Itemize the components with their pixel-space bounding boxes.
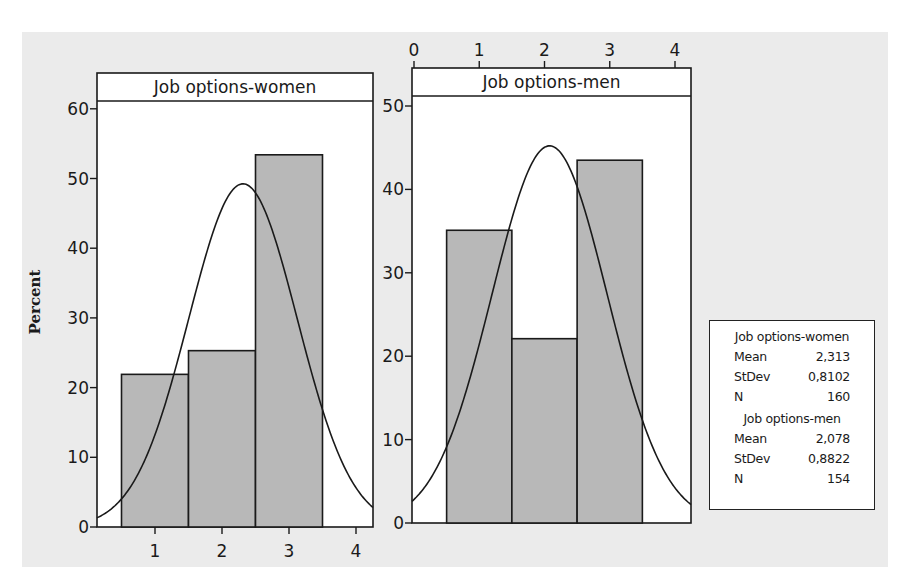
histogram-bar xyxy=(189,351,256,527)
stat-value: 0,8102 xyxy=(808,367,850,387)
x-tick-label: 1 xyxy=(474,40,485,60)
legend-row-n: N160 xyxy=(720,387,864,407)
y-tick-label: 20 xyxy=(67,378,89,398)
x-tick-label: 3 xyxy=(604,40,615,60)
x-tick-label: 4 xyxy=(351,541,362,561)
stat-value: 154 xyxy=(827,469,850,489)
stat-label: Mean xyxy=(734,347,767,367)
histogram-bar xyxy=(122,374,189,527)
stat-value: 0,8822 xyxy=(808,449,850,469)
stat-value: 160 xyxy=(827,387,850,407)
y-tick-label: 30 xyxy=(67,308,89,328)
legend-title: Job options-women xyxy=(720,329,864,344)
legend-row-mean: Mean2,313 xyxy=(720,347,864,367)
panel-title: Job options-men xyxy=(481,72,620,92)
y-tick-label: 0 xyxy=(393,513,404,533)
statistics-legend: Job options-women Mean2,313 StDev0,8102 … xyxy=(709,320,875,510)
x-tick-label: 2 xyxy=(539,40,550,60)
panel-title: Job options-women xyxy=(153,77,316,97)
y-tick-label: 10 xyxy=(382,430,404,450)
stat-value: 2,078 xyxy=(816,429,850,449)
y-tick-label: 20 xyxy=(382,346,404,366)
y-tick-label: 30 xyxy=(382,263,404,283)
legend-row-mean: Mean2,078 xyxy=(720,429,864,449)
y-tick-label: 60 xyxy=(67,99,89,119)
stat-label: StDev xyxy=(734,367,770,387)
stat-label: N xyxy=(734,469,743,489)
legend-row-stdev: StDev0,8822 xyxy=(720,449,864,469)
stat-value: 2,313 xyxy=(816,347,850,367)
legend-row-n: N154 xyxy=(720,469,864,489)
x-tick-label: 3 xyxy=(284,541,295,561)
legend-row-stdev: StDev0,8102 xyxy=(720,367,864,387)
x-tick-label: 1 xyxy=(150,541,161,561)
x-tick-label: 4 xyxy=(670,40,681,60)
legend-title: Job options-men xyxy=(720,411,864,426)
y-tick-label: 40 xyxy=(67,238,89,258)
x-tick-label: 2 xyxy=(217,541,228,561)
panel-men: Job options-men0102030405001234 xyxy=(382,40,691,533)
x-tick-label: 0 xyxy=(409,40,420,60)
panel-women: Job options-women01020304050601234 xyxy=(67,73,373,561)
stat-label: Mean xyxy=(734,429,767,449)
y-tick-label: 40 xyxy=(382,179,404,199)
histogram-bar xyxy=(447,230,512,523)
y-axis-label: Percent xyxy=(26,270,44,335)
legend-group-women: Job options-women Mean2,313 StDev0,8102 … xyxy=(720,329,864,407)
stat-label: N xyxy=(734,387,743,407)
y-tick-label: 50 xyxy=(382,96,404,116)
stat-label: StDev xyxy=(734,449,770,469)
y-tick-label: 50 xyxy=(67,169,89,189)
y-tick-label: 10 xyxy=(67,447,89,467)
legend-group-men: Job options-men Mean2,078 StDev0,8822 N1… xyxy=(720,411,864,489)
y-tick-label: 0 xyxy=(78,517,89,537)
histogram-bar xyxy=(512,339,577,523)
